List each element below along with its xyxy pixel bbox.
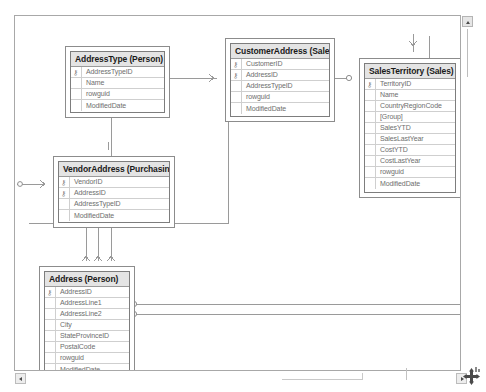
column-name: AddressTypeID — [82, 67, 133, 77]
table-addresstype-body: AddressType (Person) ⚷ AddressTypeID Nam… — [70, 51, 165, 113]
table-row[interactable]: ModifiedDate — [45, 364, 129, 371]
column-name: [Group] — [376, 112, 403, 122]
table-customeraddress[interactable]: CustomerAddress (Sales) ⚷ CustomerID ⚷ A… — [225, 38, 335, 122]
table-row[interactable]: Name — [71, 78, 164, 89]
table-row[interactable]: ModifiedDate — [365, 178, 455, 189]
table-addresstype[interactable]: AddressType (Person) ⚷ AddressTypeID Nam… — [65, 46, 170, 118]
key-icon: ⚷ — [47, 289, 54, 296]
table-row[interactable]: rowguid — [365, 167, 455, 178]
table-row[interactable]: SalesLastYear — [365, 134, 455, 145]
table-row[interactable]: rowguid — [45, 353, 129, 364]
primary-key-gutter: ⚷ — [231, 59, 242, 69]
table-row[interactable]: ⚷ AddressID — [45, 287, 129, 298]
column-name: Name — [82, 78, 104, 88]
table-addresstype-title: AddressType (Person) — [71, 52, 164, 67]
column-name: SalesLastYear — [376, 134, 424, 144]
column-name: CostLastYear — [376, 156, 421, 166]
arrow-up-icon — [466, 21, 470, 24]
horizontal-scrollbar-divider — [406, 368, 407, 380]
column-name: rowguid — [376, 167, 404, 177]
table-row[interactable]: rowguid — [71, 89, 164, 100]
scroll-up-button[interactable] — [462, 16, 473, 27]
table-row[interactable]: StateProvinceID — [45, 331, 129, 342]
horizontal-scrollbar[interactable] — [14, 372, 461, 385]
scroll-left-button[interactable] — [15, 373, 26, 384]
column-name: CountryRegionCode — [376, 101, 442, 111]
column-name: City — [56, 320, 72, 330]
table-row[interactable]: SalesYTD — [365, 123, 455, 134]
column-name: rowguid — [56, 353, 84, 363]
column-gutter — [45, 331, 56, 341]
arrow-left-icon — [19, 377, 22, 381]
relationship-addresstype-customeraddress — [163, 75, 217, 82]
table-row[interactable]: CostLastYear — [365, 156, 455, 167]
column-gutter — [45, 364, 56, 371]
column-name: ModifiedDate — [376, 179, 420, 189]
table-salesterritory[interactable]: SalesTerritory (Sales) ⚷ TerritoryID Nam… — [359, 58, 461, 198]
key-icon: ⚷ — [73, 69, 80, 76]
diagram-canvas[interactable]: CustomerAddress (horizontal at y~62) --> — [14, 15, 461, 371]
table-row[interactable]: PostalCode — [45, 342, 129, 353]
primary-key-gutter: ⚷ — [59, 188, 70, 198]
table-row[interactable]: ⚷ AddressID — [59, 188, 169, 199]
table-address-title: Address (Person) — [45, 272, 129, 287]
column-gutter — [231, 92, 242, 102]
table-row[interactable]: ModifiedDate — [59, 210, 169, 221]
key-icon: ⚷ — [367, 81, 374, 88]
column-gutter — [365, 145, 376, 155]
column-name: CostYTD — [376, 145, 408, 155]
table-row[interactable]: ⚷ TerritoryID — [365, 79, 455, 90]
table-row[interactable]: CostYTD — [365, 145, 455, 156]
table-row[interactable]: CountryRegionCode — [365, 101, 455, 112]
table-row[interactable]: ⚷ VendorID — [59, 177, 169, 188]
column-name: AddressTypeID — [70, 199, 121, 209]
table-row[interactable]: AddressLine1 — [45, 298, 129, 309]
primary-key-gutter: ⚷ — [231, 70, 242, 80]
move-resize-handle[interactable] — [461, 366, 483, 388]
table-row[interactable]: City — [45, 320, 129, 331]
column-gutter — [231, 103, 242, 114]
table-row[interactable]: AddressLine2 — [45, 309, 129, 320]
vertical-scrollbar-track[interactable] — [467, 29, 468, 77]
key-icon: ⚷ — [233, 72, 240, 79]
column-name: VendorID — [70, 177, 102, 187]
column-name: SalesYTD — [376, 123, 411, 133]
primary-key-gutter: ⚷ — [71, 67, 82, 77]
table-row[interactable]: AddressTypeID — [59, 199, 169, 210]
table-salesterritory-title: SalesTerritory (Sales) — [365, 64, 455, 79]
table-row[interactable]: ModifiedDate — [231, 103, 329, 114]
column-name: PostalCode — [56, 342, 95, 352]
column-name: AddressID — [70, 188, 106, 198]
table-row[interactable]: ⚷ AddressTypeID — [71, 67, 164, 78]
table-row[interactable]: ModifiedDate — [71, 100, 164, 111]
column-name: ModifiedDate — [242, 104, 286, 114]
key-icon: ⚷ — [61, 190, 68, 197]
relationship-left-vendoraddress — [17, 181, 45, 188]
vertical-scrollbar[interactable] — [461, 15, 474, 371]
table-row[interactable]: ⚷ CustomerID — [231, 59, 329, 70]
table-row[interactable]: rowguid — [231, 92, 329, 103]
table-address[interactable]: Address (Person) ⚷ AddressID AddressLine… — [39, 266, 135, 371]
column-gutter — [365, 134, 376, 144]
table-customeraddress-body: CustomerAddress (Sales) ⚷ CustomerID ⚷ A… — [230, 43, 330, 117]
table-row[interactable]: [Group] — [365, 112, 455, 123]
horizontal-scrollbar-tick — [362, 373, 363, 380]
column-name: ModifiedDate — [70, 211, 114, 221]
horizontal-scrollbar-track[interactable] — [282, 379, 362, 380]
column-gutter — [59, 210, 70, 221]
table-row[interactable]: ⚷ AddressID — [231, 70, 329, 81]
column-name: AddressLine2 — [56, 309, 102, 319]
table-customeraddress-title: CustomerAddress (Sales) — [231, 44, 329, 59]
column-gutter — [45, 320, 56, 330]
column-gutter — [71, 100, 82, 111]
column-gutter — [365, 101, 376, 111]
column-name: CustomerID — [242, 59, 282, 69]
column-name: AddressLine1 — [56, 298, 102, 308]
table-salesterritory-body: SalesTerritory (Sales) ⚷ TerritoryID Nam… — [364, 63, 456, 193]
column-gutter — [365, 178, 376, 189]
table-row[interactable]: AddressTypeID — [231, 81, 329, 92]
table-vendoraddress-title: VendorAddress (Purchasing) — [59, 162, 169, 177]
table-row[interactable]: Name — [365, 90, 455, 101]
table-vendoraddress[interactable]: VendorAddress (Purchasing) ⚷ VendorID ⚷ … — [53, 156, 175, 228]
column-gutter — [45, 309, 56, 319]
